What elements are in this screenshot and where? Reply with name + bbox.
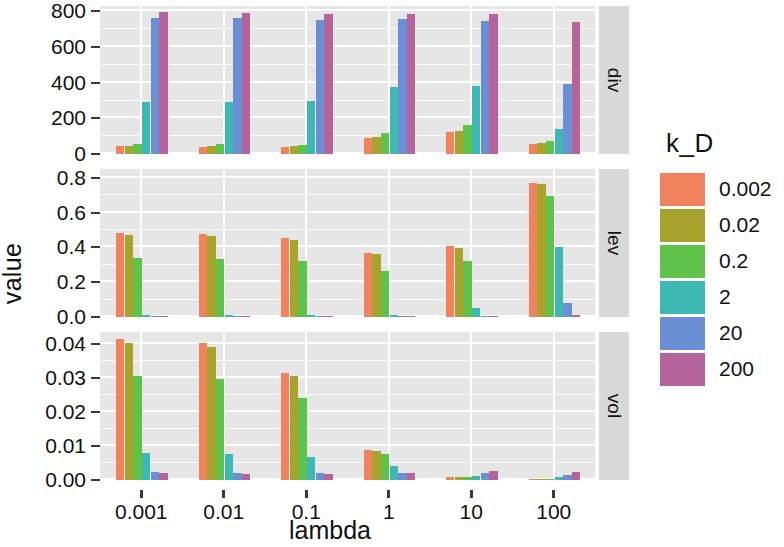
legend-item[interactable]: 0.002 bbox=[660, 171, 784, 207]
facet-strip-label: lev bbox=[603, 231, 625, 255]
bar bbox=[151, 316, 159, 317]
bar bbox=[116, 233, 124, 317]
bar bbox=[199, 343, 207, 480]
bar bbox=[407, 316, 415, 317]
bar bbox=[216, 144, 224, 154]
legend-label: 0.2 bbox=[719, 249, 748, 273]
bar bbox=[364, 253, 372, 317]
bar bbox=[199, 234, 207, 317]
panel-bars bbox=[100, 169, 595, 317]
bar bbox=[463, 125, 471, 154]
y-tick-mark bbox=[91, 46, 100, 48]
x-tick-mark bbox=[140, 490, 143, 498]
bar bbox=[381, 133, 389, 154]
bar bbox=[307, 457, 315, 480]
bar bbox=[242, 316, 250, 317]
bar bbox=[563, 303, 571, 317]
bar-group bbox=[183, 6, 266, 154]
bar bbox=[281, 373, 289, 480]
bar bbox=[381, 454, 389, 480]
bar bbox=[125, 146, 133, 154]
bar bbox=[207, 347, 215, 480]
bar bbox=[290, 376, 298, 480]
bar bbox=[307, 315, 315, 317]
legend-swatch bbox=[660, 353, 705, 386]
y-axis-label-group: 0200400600800 bbox=[0, 6, 100, 154]
legend-item[interactable]: 0.2 bbox=[660, 243, 784, 279]
bar-group bbox=[430, 6, 513, 154]
bar bbox=[407, 473, 415, 480]
bar bbox=[537, 479, 545, 480]
bar bbox=[472, 86, 480, 154]
y-tick-mark bbox=[91, 281, 100, 283]
y-tick-mark bbox=[91, 10, 100, 12]
panel-vol bbox=[100, 332, 595, 480]
bar bbox=[159, 12, 167, 154]
bar bbox=[316, 20, 324, 154]
bar-group bbox=[265, 332, 348, 480]
y-tick-mark bbox=[91, 343, 100, 345]
bar-group bbox=[100, 6, 183, 154]
bar bbox=[546, 141, 554, 154]
bar bbox=[472, 476, 480, 480]
bar bbox=[207, 236, 215, 317]
bar bbox=[151, 18, 159, 154]
y-tick-mark bbox=[91, 411, 100, 413]
bar bbox=[398, 473, 406, 480]
bar-group bbox=[100, 169, 183, 317]
bar bbox=[298, 261, 306, 317]
legend-item[interactable]: 20 bbox=[660, 315, 784, 351]
bar bbox=[324, 316, 332, 317]
y-tick-mark bbox=[91, 445, 100, 447]
bar bbox=[233, 473, 241, 480]
y-tick-label: 0.02 bbox=[45, 400, 86, 424]
bar bbox=[555, 247, 563, 317]
y-tick-label: 0 bbox=[74, 142, 86, 166]
legend-item[interactable]: 2 bbox=[660, 279, 784, 315]
bar bbox=[529, 183, 537, 317]
bar bbox=[390, 466, 398, 480]
bar bbox=[316, 473, 324, 480]
bar bbox=[455, 131, 463, 154]
bar-group bbox=[513, 169, 596, 317]
bar bbox=[159, 473, 167, 480]
bar bbox=[555, 129, 563, 154]
y-tick-label: 0.03 bbox=[45, 366, 86, 390]
bar bbox=[489, 14, 497, 154]
legend-label: 0.002 bbox=[719, 177, 772, 201]
bar bbox=[372, 137, 380, 154]
y-tick-label: 600 bbox=[51, 35, 86, 59]
y-tick-label: 0.0 bbox=[57, 305, 86, 329]
bar bbox=[537, 184, 545, 317]
legend-swatch bbox=[660, 209, 705, 242]
y-tick-mark bbox=[91, 212, 100, 214]
legend-item[interactable]: 0.02 bbox=[660, 207, 784, 243]
y-tick-mark bbox=[91, 377, 100, 379]
legend-item[interactable]: 200 bbox=[660, 351, 784, 387]
facet-strip-label: div bbox=[603, 68, 625, 92]
bar bbox=[207, 146, 215, 154]
bar bbox=[324, 14, 332, 155]
bar bbox=[446, 132, 454, 154]
legend-swatch bbox=[660, 173, 705, 206]
bar bbox=[529, 144, 537, 154]
y-axis-label-group: 0.00.20.40.60.8 bbox=[0, 169, 100, 317]
bar bbox=[216, 259, 224, 318]
legend-swatch bbox=[660, 281, 705, 314]
legend-title: k_D bbox=[666, 128, 784, 159]
y-tick-label: 0.6 bbox=[57, 201, 86, 225]
y-tick-label: 0.01 bbox=[45, 434, 86, 458]
bar-group bbox=[348, 169, 431, 317]
bar bbox=[290, 146, 298, 154]
x-tick-mark bbox=[305, 490, 308, 498]
legend-label: 2 bbox=[719, 285, 731, 309]
bar bbox=[372, 254, 380, 317]
bar-group bbox=[513, 6, 596, 154]
panel-div bbox=[100, 6, 595, 154]
bar bbox=[364, 450, 372, 480]
bar bbox=[233, 316, 241, 317]
y-tick-mark bbox=[91, 82, 100, 84]
bar bbox=[364, 138, 372, 154]
bar-group bbox=[430, 169, 513, 317]
bar bbox=[142, 315, 150, 317]
